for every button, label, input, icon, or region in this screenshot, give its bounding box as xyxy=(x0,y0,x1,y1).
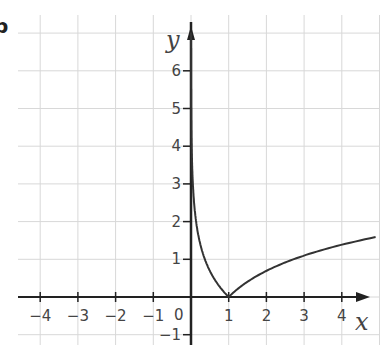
x-tick-label: −1 xyxy=(142,307,164,325)
x-tick-label: 4 xyxy=(337,307,347,325)
y-tick-label: 5 xyxy=(171,100,181,118)
x-tick-label: −4 xyxy=(29,307,51,325)
origin-label: 0 xyxy=(174,306,184,324)
x-tick-label: 1 xyxy=(224,307,234,325)
x-tick-label: −3 xyxy=(67,307,89,325)
curve-abs-ln-x xyxy=(191,33,376,297)
y-tick-label: −1 xyxy=(159,326,181,344)
y-tick-label: 1 xyxy=(171,250,181,268)
y-tick-label: 6 xyxy=(171,62,181,80)
y-tick-label: 3 xyxy=(171,175,181,193)
x-tick-label: 2 xyxy=(262,307,272,325)
x-tick-label: −2 xyxy=(105,307,127,325)
x-tick-label: 3 xyxy=(299,307,309,325)
x-axis-arrow-icon xyxy=(356,292,370,302)
ticks: −4−3−2−11234−1123456 xyxy=(29,62,346,344)
graph: −4−3−2−11234−1123456 x y 0 b xyxy=(0,0,380,345)
y-tick-label: 2 xyxy=(171,213,181,231)
part-marker: b xyxy=(0,14,8,38)
y-tick-label: 4 xyxy=(171,137,181,155)
x-axis-label: x xyxy=(355,308,369,336)
y-axis-label: y xyxy=(165,26,180,54)
grid xyxy=(18,15,380,345)
